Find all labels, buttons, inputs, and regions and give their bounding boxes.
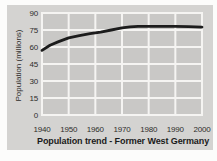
screenshot-root: { "page": { "background": "#fcfcfb" }, "… xyxy=(0,0,217,161)
x-tick-label: 1960 xyxy=(87,125,104,134)
y-tick-label: 30 xyxy=(17,77,38,86)
x-tick-label: 1990 xyxy=(167,125,184,134)
y-tick-label: 15 xyxy=(17,94,38,103)
y-tick-label: 60 xyxy=(17,43,38,52)
y-tick-label: 0 xyxy=(17,111,38,120)
chart-card: Population (millions) 0153045607590 1940… xyxy=(7,5,213,150)
x-tick-label: 1940 xyxy=(34,125,51,134)
plot-area xyxy=(42,13,202,115)
chart-svg xyxy=(42,13,202,115)
x-tick-label: 2000 xyxy=(194,125,211,134)
y-tick-label: 75 xyxy=(17,26,38,35)
x-tick-label: 1950 xyxy=(60,125,77,134)
x-axis-tick-labels: 1940195019601970198019902000 xyxy=(42,125,202,135)
x-tick-label: 1970 xyxy=(114,125,131,134)
y-tick-label: 45 xyxy=(17,60,38,69)
x-tick-label: 1980 xyxy=(140,125,157,134)
y-axis-tick-labels: 0153045607590 xyxy=(17,13,38,115)
chart-title: Population trend - Former West Germany xyxy=(37,136,207,147)
y-tick-label: 90 xyxy=(17,9,38,18)
